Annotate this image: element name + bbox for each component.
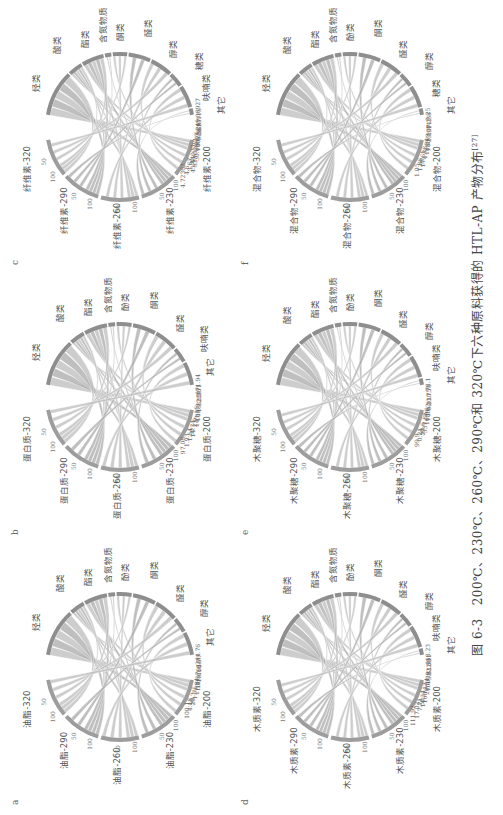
axis-tick: 50	[270, 428, 277, 436]
axis-tick: 50	[300, 732, 307, 740]
product-label: 酸类	[55, 304, 65, 322]
product-label: 醛类	[398, 39, 408, 57]
product-label: 酯类	[83, 298, 93, 316]
product-label: 酸类	[282, 36, 292, 54]
product-label: 含氮物质	[328, 547, 338, 583]
product-label: 酚类	[345, 563, 355, 581]
axis-tick: 50	[40, 158, 47, 166]
axis-tick: 100	[86, 738, 93, 750]
axis-tick: 100	[49, 171, 56, 183]
caption-text: 200℃、230℃、260℃、290℃和 320℃下六种原料获得的 HTL-AP…	[471, 150, 485, 605]
product-label: 醛类	[175, 584, 185, 602]
product-label: 醇类	[424, 322, 434, 340]
product-label: 酸类	[282, 576, 292, 594]
value-label: 1.05	[413, 163, 420, 177]
product-arc	[335, 593, 342, 598]
product-label: 含氮物质	[103, 277, 113, 313]
product-arc	[335, 53, 342, 58]
axis-tick: 100	[131, 201, 138, 213]
axis-tick: 100	[402, 179, 409, 191]
temperature-label: 纤维素-230	[165, 187, 175, 233]
axis-tick: 50	[270, 698, 277, 706]
axis-tick: 50	[300, 192, 307, 200]
product-label: 糖类	[194, 52, 204, 70]
axis-tick: 50	[388, 732, 395, 740]
chord-panel-a: a油脂-20010050油脂-23010050油脂-26010050油脂-290…	[10, 537, 235, 807]
product-label: 烃类	[261, 344, 271, 362]
axis-tick: 50	[70, 732, 77, 740]
axis-tick: 50	[344, 205, 351, 213]
product-arc	[381, 599, 402, 615]
axis-tick: 100	[402, 719, 409, 731]
axis-tick: 100	[131, 471, 138, 483]
axis-tick: 50	[114, 475, 121, 483]
temperature-label: 混合物-200	[432, 146, 442, 192]
product-label: 酯类	[310, 570, 320, 588]
product-label: 酮类	[115, 23, 125, 41]
product-label: 烃类	[31, 74, 41, 92]
product-label: 酯类	[310, 300, 320, 318]
product-label: 其它	[216, 96, 226, 114]
axis-tick: 100	[361, 471, 368, 483]
product-arc	[108, 322, 115, 327]
product-label: 呋喃类	[431, 344, 441, 371]
product-label: 醛类	[398, 579, 408, 597]
temperature-label: 蛋白质-320	[22, 416, 32, 462]
axis-tick: 100	[49, 441, 56, 453]
product-label: 其它	[205, 358, 215, 376]
product-label: 酯类	[310, 30, 320, 48]
product-label: 含氮物质	[328, 277, 338, 313]
product-arc	[343, 322, 358, 326]
temperature-label: 油脂-290	[59, 732, 69, 769]
product-label: 醇类	[424, 592, 434, 610]
chord-diagram: 蛋白质-20010050蛋白质-23010050蛋白质-26010050蛋白质-…	[10, 267, 235, 537]
product-arc	[343, 592, 358, 596]
product-label: 酚类	[120, 563, 130, 581]
temperature-label: 蛋白质-230	[165, 457, 175, 503]
product-arc	[381, 329, 402, 345]
temperature-label: 木聚糖-290	[289, 457, 299, 503]
product-label: 烃类	[31, 613, 41, 631]
figure-caption: 图 6-3 200℃、230℃、260℃、290℃和 320℃下六种原料获得的 …	[468, 15, 485, 775]
product-label: 醇类	[424, 52, 434, 70]
product-label: 酮类	[373, 19, 383, 37]
product-arc	[358, 593, 381, 603]
product-label: 其它	[446, 636, 456, 654]
axis-tick: 50	[388, 462, 395, 470]
product-label: 其它	[205, 628, 215, 646]
chord-panel-c: c纤维素-20010050纤维素-23010050纤维素-26010050纤维素…	[10, 0, 235, 267]
product-label: 酯类	[80, 30, 90, 48]
product-arc	[151, 59, 172, 75]
product-label: 酮类	[373, 289, 383, 307]
product-arc	[108, 592, 115, 597]
product-arc	[381, 59, 402, 75]
axis-tick: 50	[158, 732, 165, 740]
temperature-label: 木质素-200	[432, 686, 442, 732]
product-label: 酸类	[52, 36, 62, 54]
temperature-label: 蛋白质-200	[202, 416, 212, 462]
axis-tick: 50	[70, 462, 77, 470]
axis-tick: 100	[402, 449, 409, 461]
product-label: 其它	[446, 96, 456, 114]
chord-panel-b: b蛋白质-20010050蛋白质-23010050蛋白质-26010050蛋白质…	[10, 267, 235, 537]
temperature-label: 木聚糖-320	[252, 416, 262, 462]
axis-tick: 50	[300, 462, 307, 470]
chord-panel-e: e木聚糖-20010050木聚糖-23010050木聚糖-26010050木聚糖…	[240, 267, 465, 537]
product-arc	[113, 52, 128, 56]
product-label: 其它	[446, 366, 456, 384]
axis-tick: 50	[270, 158, 277, 166]
product-label: 呋喃类	[199, 325, 209, 352]
temperature-label: 蛋白质-290	[59, 457, 69, 503]
axis-tick: 100	[86, 468, 93, 480]
product-label: 含氮物质	[98, 7, 108, 43]
axis-tick: 50	[114, 745, 121, 753]
product-label: 糖类	[431, 78, 441, 96]
axis-tick: 50	[70, 192, 77, 200]
product-label: 酮类	[149, 291, 159, 309]
chord-panel-f: f混合物-20010050混合物-23010050混合物-26010050混合物…	[240, 0, 465, 267]
temperature-label: 木质素-290	[289, 727, 299, 773]
temperature-label: 油脂-320	[22, 691, 32, 728]
axis-tick: 100	[316, 468, 323, 480]
chord-diagram: 纤维素-20010050纤维素-23010050纤维素-26010050纤维素-…	[10, 0, 235, 267]
axis-tick: 100	[172, 179, 179, 191]
